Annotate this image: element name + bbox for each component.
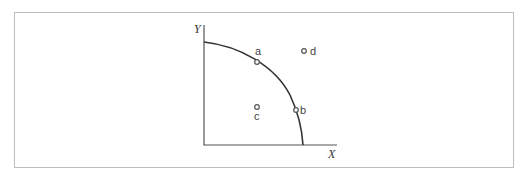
point-a: a bbox=[255, 45, 262, 64]
frontier-curve bbox=[204, 42, 303, 145]
point-d-marker bbox=[302, 49, 307, 54]
y-axis-label: Y bbox=[194, 22, 202, 36]
point-c-label: c bbox=[254, 110, 260, 122]
point-c-marker bbox=[255, 105, 260, 110]
point-d: d bbox=[302, 45, 316, 57]
point-d-label: d bbox=[310, 45, 316, 57]
point-b: b bbox=[294, 104, 306, 116]
point-b-marker bbox=[294, 108, 299, 113]
point-b-label: b bbox=[300, 104, 306, 116]
point-c: c bbox=[254, 105, 260, 122]
point-a-label: a bbox=[255, 45, 262, 57]
x-axis-label: X bbox=[327, 147, 336, 161]
point-a-marker bbox=[255, 60, 260, 65]
ppf-diagram: Y X a b c d bbox=[0, 0, 525, 178]
